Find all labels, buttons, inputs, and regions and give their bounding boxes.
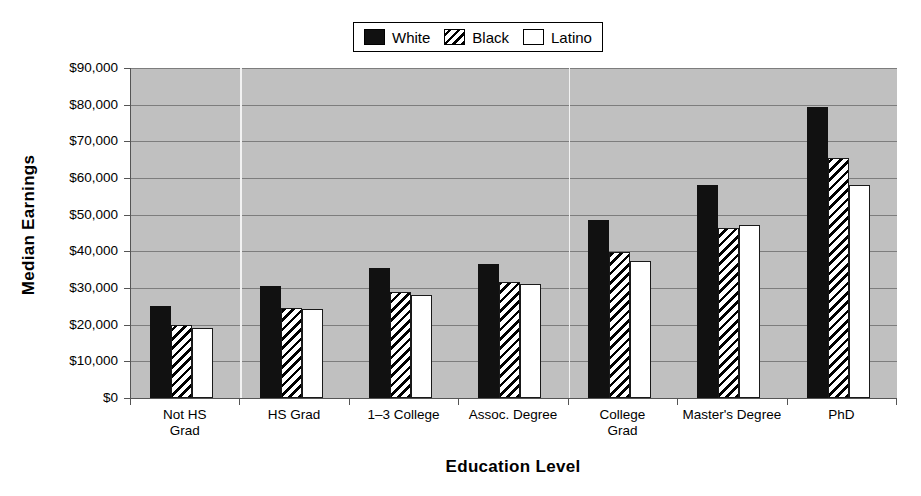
legend-label: White	[392, 30, 430, 45]
x-axis-category-label: Master's Degree	[677, 407, 786, 423]
legend-swatch-icon	[444, 29, 465, 45]
bar-latino	[520, 284, 541, 398]
bar-latino	[302, 309, 323, 398]
bar-group	[788, 68, 897, 398]
bar-black	[171, 325, 192, 398]
bar-latino	[192, 328, 213, 398]
legend-entry-black: Black	[444, 29, 509, 45]
x-axis-category-label: HS Grad	[239, 407, 348, 423]
bar-white	[807, 107, 828, 399]
x-axis-tick-mark	[568, 399, 569, 405]
plot-area	[130, 68, 897, 399]
bar-white	[150, 306, 171, 398]
chart-legend: WhiteBlackLatino	[353, 22, 603, 52]
x-axis-tick-mark	[787, 399, 788, 405]
bar-group	[678, 68, 787, 398]
bar-group	[569, 68, 678, 398]
y-axis-tick-label: $90,000	[8, 61, 118, 75]
bar-black	[828, 158, 849, 398]
bar-group	[131, 68, 240, 398]
bar-latino	[849, 185, 870, 398]
bar-white	[697, 185, 718, 398]
legend-entry-white: White	[364, 29, 430, 45]
x-axis-tick-mark	[130, 399, 131, 405]
bar-white	[369, 268, 390, 398]
legend-entry-latino: Latino	[523, 29, 592, 45]
bar-white	[260, 286, 281, 398]
bar-latino	[411, 295, 432, 398]
bar-white	[588, 220, 609, 398]
x-axis-category-label: Not HS Grad	[130, 407, 239, 439]
x-axis-tick-mark	[239, 399, 240, 405]
bar-black	[390, 292, 411, 398]
x-axis-tick-mark	[677, 399, 678, 405]
bar-group	[240, 68, 349, 398]
y-axis-title: Median Earnings	[19, 110, 39, 340]
x-axis-category-label: College Grad	[568, 407, 677, 439]
bar-black	[609, 252, 630, 398]
bar-chart: WhiteBlackLatino Median Earnings Educati…	[0, 0, 921, 496]
bar-group	[350, 68, 459, 398]
bar-white	[478, 264, 499, 398]
x-axis-tick-mark	[349, 399, 350, 405]
x-axis-category-label: Assoc. Degree	[458, 407, 567, 423]
x-axis-tick-mark	[458, 399, 459, 405]
bar-latino	[739, 225, 760, 398]
legend-label: Latino	[551, 30, 592, 45]
bar-black	[499, 282, 520, 398]
legend-swatch-icon	[364, 29, 385, 45]
bar-latino	[630, 261, 651, 399]
y-axis-tick-label: $0	[8, 391, 118, 405]
bar-group	[459, 68, 568, 398]
bar-black	[281, 308, 302, 398]
legend-swatch-icon	[523, 29, 544, 45]
x-axis-title: Education Level	[130, 457, 896, 477]
y-axis-tick-label: $10,000	[8, 354, 118, 368]
x-axis-category-label: PhD	[787, 407, 896, 423]
x-axis-category-label: 1–3 College	[349, 407, 458, 423]
x-axis-tick-mark	[896, 399, 897, 405]
legend-label: Black	[472, 30, 509, 45]
bar-black	[718, 228, 739, 398]
